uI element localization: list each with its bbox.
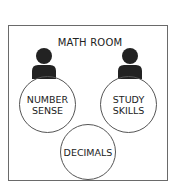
- station-label: STUDY: [113, 94, 145, 105]
- station-number-sense: NUMBERSENSE: [19, 76, 76, 133]
- person-icon: [30, 47, 58, 79]
- station-decimals: DECIMALS: [60, 124, 116, 180]
- room-title: MATH ROOM: [0, 37, 180, 48]
- station-label: SKILLS: [113, 105, 145, 116]
- station-label: SENSE: [27, 105, 68, 116]
- station-label: DECIMALS: [64, 147, 113, 158]
- station-label: NUMBER: [27, 94, 68, 105]
- person-icon: [116, 47, 144, 79]
- station-study-skills: STUDYSKILLS: [100, 76, 157, 133]
